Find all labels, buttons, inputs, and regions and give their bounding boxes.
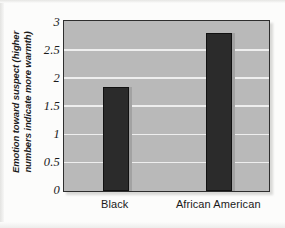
gridline xyxy=(64,134,269,136)
y-axis-title-line-2: numbers indicate more warmth) xyxy=(22,16,34,188)
y-axis-tick-labels: 00.511.522.53 xyxy=(36,0,60,228)
x-axis-category-label: Black xyxy=(55,198,175,210)
y-axis-title-line-1: Emotion toward suspect (higher xyxy=(10,16,22,188)
y-axis-tick-label: 0.5 xyxy=(36,155,60,170)
y-axis-tick-label: 1 xyxy=(36,127,60,142)
y-axis-tick-label: 0 xyxy=(36,183,60,198)
y-axis-tick-label: 2 xyxy=(36,70,60,85)
y-axis-title-text: Emotion toward suspect (highernumbers in… xyxy=(10,16,33,188)
y-axis-tick-label: 1.5 xyxy=(36,99,60,114)
gridline xyxy=(64,49,269,51)
gridline xyxy=(64,105,269,107)
bar-chart-figure: Emotion toward suspect (highernumbers in… xyxy=(0,0,285,228)
gridline xyxy=(64,162,269,164)
bar[interactable] xyxy=(103,87,129,191)
bar[interactable] xyxy=(206,33,232,191)
y-axis-tick-label: 2.5 xyxy=(36,42,60,57)
gridline xyxy=(64,77,269,79)
plot-area xyxy=(63,20,270,192)
y-axis-tick-label: 3 xyxy=(36,14,60,29)
x-axis-category-label: African American xyxy=(158,198,278,210)
